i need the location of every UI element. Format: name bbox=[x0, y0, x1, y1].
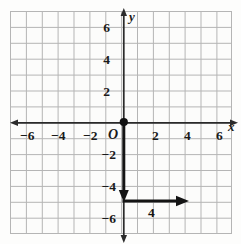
figure-root: −6 −4 −2 2 4 6 6 4 2 −2 −4 −6 O x y 4 bbox=[0, 0, 241, 244]
y-tick-label-pos4: 4 bbox=[103, 52, 110, 67]
y-tick-label-neg6: −6 bbox=[102, 211, 117, 226]
y-tick-label-pos6: 6 bbox=[103, 20, 110, 35]
x-tick-label-neg4: −4 bbox=[51, 128, 66, 143]
y-axis-bottom-arrowhead bbox=[121, 235, 127, 243]
y-axis-name-label: y bbox=[127, 9, 135, 24]
x-tick-label-pos4: 4 bbox=[184, 128, 191, 143]
vector-length-label: 4 bbox=[148, 205, 155, 220]
x-axis-name-label: x bbox=[227, 119, 235, 134]
y-tick-label-neg2: −2 bbox=[102, 147, 117, 162]
origin-point-marker bbox=[120, 118, 128, 126]
x-tick-label-neg6: −6 bbox=[20, 128, 35, 143]
y-tick-label-pos2: 2 bbox=[103, 84, 110, 99]
x-tick-label-pos6: 6 bbox=[216, 128, 223, 143]
y-tick-label-neg4: −4 bbox=[102, 179, 117, 194]
x-tick-label-neg2: −2 bbox=[83, 128, 98, 143]
x-tick-label-pos2: 2 bbox=[152, 128, 159, 143]
origin-label: O bbox=[108, 127, 118, 142]
coordinate-plane: −6 −4 −2 2 4 6 6 4 2 −2 −4 −6 O x y 4 bbox=[0, 0, 241, 244]
